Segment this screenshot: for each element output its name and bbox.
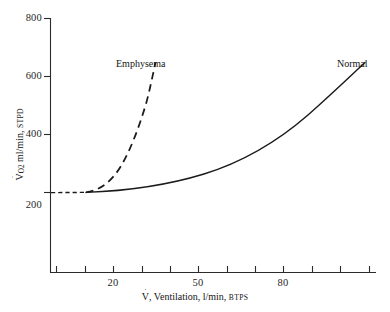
y-axis-title-rest: ml/min, <box>14 128 25 164</box>
x-tick-label-50: 50 <box>184 277 212 288</box>
y-axis-ticks <box>44 19 51 193</box>
series-emphysema-curve <box>86 63 156 193</box>
plot-canvas <box>0 0 390 312</box>
y-axis-title-v: V <box>14 173 25 180</box>
x-axis-title-v: V <box>142 291 149 302</box>
y-axis-title-sub-2: 2 <box>18 164 26 168</box>
figure-oxygen-cost-of-breathing: 800 600 400 200 20 50 80 Emphysema Norma… <box>0 0 390 312</box>
y-tick-label-800: 800 <box>14 12 42 23</box>
normal-curve-label: Normal <box>337 58 368 69</box>
x-tick-label-20: 20 <box>99 277 127 288</box>
x-axis-title-btps: BTPS <box>229 293 248 302</box>
x-axis-ticks <box>57 266 370 273</box>
x-axis-title-vdot: V̇ <box>142 291 149 303</box>
y-axis-title: V̇O2 ml/min, STPD <box>14 69 29 219</box>
x-axis-title: V̇, Ventilation, l/min, BTPS <box>0 291 390 304</box>
emphysema-curve-label: Emphysema <box>116 58 165 69</box>
series-normal-curve <box>86 63 365 193</box>
x-axis-title-rest: , Ventilation, l/min, <box>149 291 229 302</box>
y-axis-title-vdot: V̇ <box>14 173 26 180</box>
y-axis-title-stpd: STPD <box>16 108 25 128</box>
x-tick-label-80: 80 <box>269 277 297 288</box>
